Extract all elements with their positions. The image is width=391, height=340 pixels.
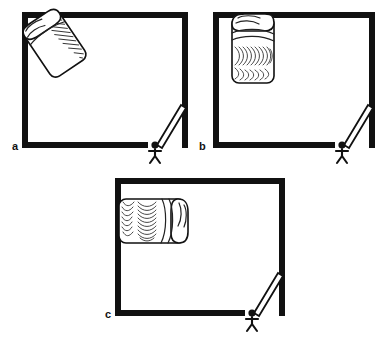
panel-c-bed-pillow — [171, 199, 188, 243]
panel-b-door-leaf — [344, 105, 373, 148]
panel-a-door-leaf — [157, 105, 186, 148]
panel-c: c — [105, 178, 285, 331]
panel-c-door-leaf — [254, 273, 283, 316]
panel-b-label: b — [199, 140, 206, 152]
figure-container: a — [0, 0, 391, 340]
panel-a: a — [12, 7, 188, 163]
panel-c-bed — [119, 199, 188, 243]
panel-b: b — [199, 12, 375, 163]
panel-a-person-head — [151, 141, 158, 148]
panel-a-person-legs — [150, 156, 160, 163]
panel-b-bed — [232, 14, 274, 83]
panel-b-person-head — [338, 141, 345, 148]
panel-c-label: c — [105, 308, 111, 320]
panel-c-person-head — [248, 309, 255, 316]
room-layout-figure: a — [0, 0, 391, 340]
panel-b-bed-pillow — [232, 14, 274, 31]
panel-b-person-legs — [337, 156, 347, 163]
panel-a-label: a — [12, 140, 19, 152]
panel-c-person-legs — [247, 324, 257, 331]
